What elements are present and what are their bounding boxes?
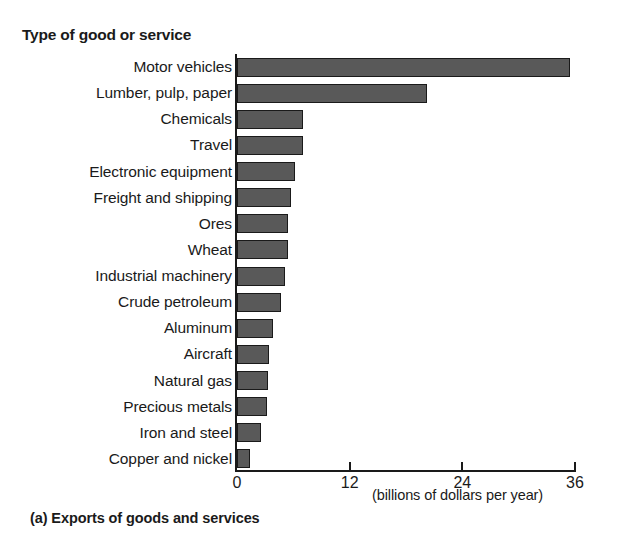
y-axis-line <box>235 54 237 472</box>
x-axis-tick-mark <box>574 462 576 471</box>
category-label: Freight and shipping <box>94 185 232 211</box>
category-label: Lumber, pulp, paper <box>96 80 232 106</box>
category-label: Wheat <box>188 237 232 263</box>
bar <box>237 371 268 390</box>
x-axis-tick-label: 12 <box>341 474 359 492</box>
bar <box>237 240 288 259</box>
bar <box>237 162 295 181</box>
bar-row: Industrial machinery <box>0 263 627 289</box>
category-label: Natural gas <box>154 368 232 394</box>
bar-row: Natural gas <box>0 368 627 394</box>
bar-row: Lumber, pulp, paper <box>0 80 627 106</box>
bar-row: Electronic equipment <box>0 159 627 185</box>
bar-row: Freight and shipping <box>0 185 627 211</box>
plot-area: Motor vehiclesLumber, pulp, paperChemica… <box>0 54 627 472</box>
x-axis-units-label: (billions of dollars per year) <box>372 487 543 503</box>
category-label: Motor vehicles <box>133 54 232 80</box>
bar-row: Aircraft <box>0 341 627 367</box>
bar-row: Crude petroleum <box>0 289 627 315</box>
category-label: Industrial machinery <box>95 263 232 289</box>
bar-chart: Type of good or service Motor vehiclesLu… <box>0 0 627 550</box>
bar <box>237 136 303 155</box>
bar-row: Chemicals <box>0 106 627 132</box>
bar-row: Travel <box>0 132 627 158</box>
category-label: Electronic equipment <box>89 159 232 185</box>
bar <box>237 214 288 233</box>
bar-row: Aluminum <box>0 315 627 341</box>
category-label: Crude petroleum <box>118 289 232 315</box>
category-label: Copper and nickel <box>109 446 232 472</box>
bar <box>237 110 303 129</box>
category-label: Iron and steel <box>139 420 232 446</box>
category-label: Precious metals <box>123 394 232 420</box>
bar <box>237 449 250 468</box>
x-axis-tick-mark <box>461 462 463 471</box>
x-axis-tick-label: 36 <box>566 474 584 492</box>
x-axis-line <box>236 470 576 472</box>
bar-row: Copper and nickel <box>0 446 627 472</box>
bar <box>237 58 570 77</box>
bar <box>237 397 267 416</box>
category-label: Aircraft <box>184 341 232 367</box>
category-label: Ores <box>199 211 232 237</box>
category-label: Chemicals <box>161 106 232 132</box>
bar <box>237 345 269 364</box>
category-label: Travel <box>190 132 232 158</box>
category-label: Aluminum <box>164 315 232 341</box>
bar-row: Wheat <box>0 237 627 263</box>
x-axis-tick-label: 0 <box>233 474 242 492</box>
bar-row: Precious metals <box>0 394 627 420</box>
bar-row: Ores <box>0 211 627 237</box>
chart-title: Type of good or service <box>22 26 191 44</box>
bar <box>237 423 261 442</box>
bar <box>237 293 281 312</box>
bar <box>237 319 273 338</box>
bar-row: Motor vehicles <box>0 54 627 80</box>
bar-row: Iron and steel <box>0 420 627 446</box>
x-axis-tick-mark <box>349 462 351 471</box>
bar <box>237 267 285 286</box>
bar <box>237 188 291 207</box>
panel-caption: (a) Exports of goods and services <box>30 510 260 526</box>
bar <box>237 84 427 103</box>
